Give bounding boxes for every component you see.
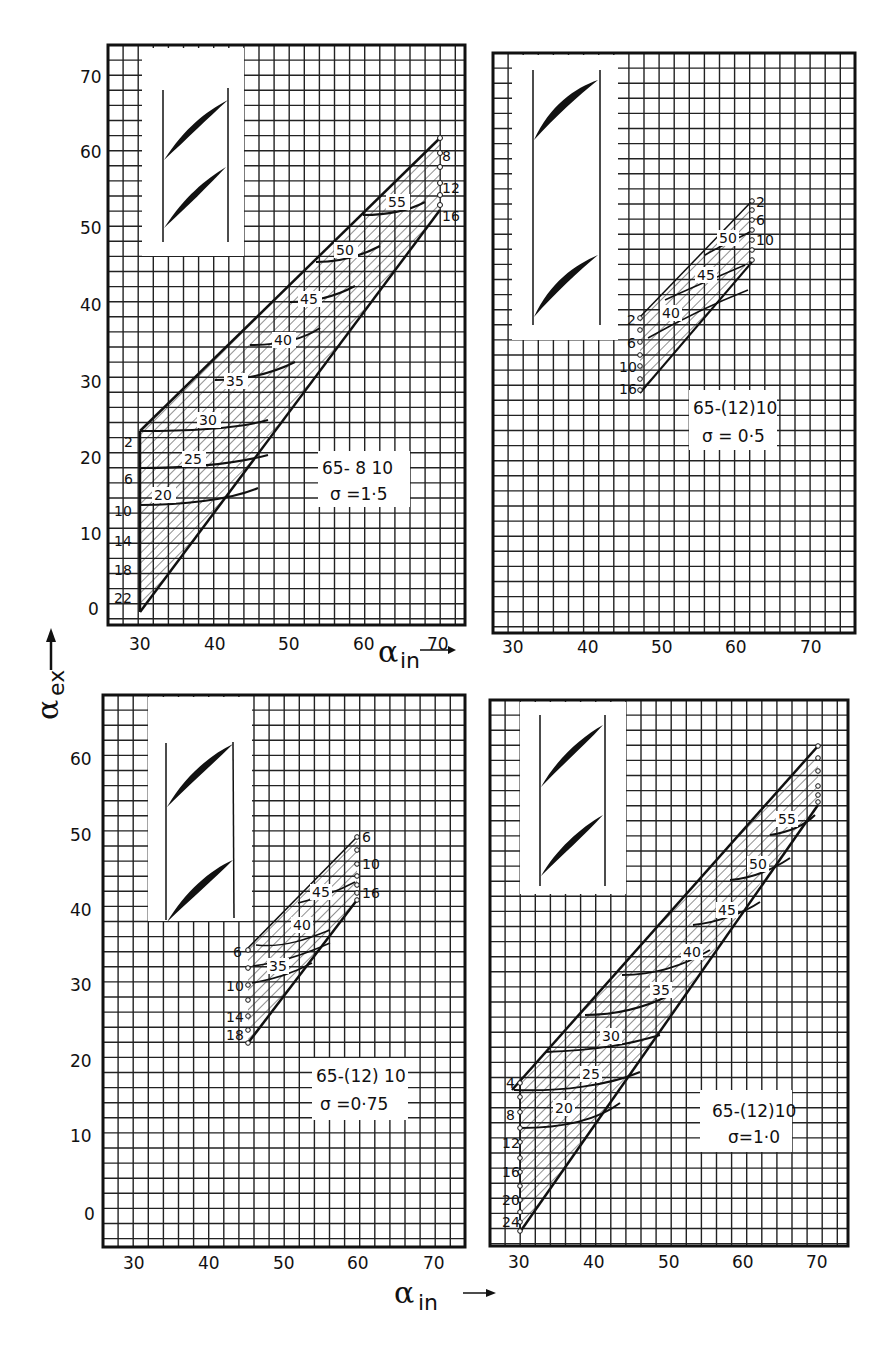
incidence-label: 6 [627, 335, 636, 351]
annotation-box: 65- 8 10 σ =1·5 [318, 451, 410, 507]
svg-text:σ=1·0: σ=1·0 [728, 1127, 780, 1147]
incidence-label: 24 [502, 1214, 520, 1230]
svg-text:ex: ex [44, 670, 69, 696]
svg-text:45: 45 [300, 291, 318, 307]
x-ticks: 3040 5060 70 [502, 637, 822, 657]
incidence-label: 16 [619, 381, 637, 397]
incidence-label: 6 [362, 829, 371, 845]
incidence-label: 20 [502, 1192, 520, 1208]
svg-text:50: 50 [336, 242, 354, 258]
svg-text:25: 25 [184, 451, 202, 467]
svg-text:40: 40 [204, 634, 226, 654]
x-ticks: 3040 5060 70 [508, 1252, 828, 1272]
svg-text:30: 30 [80, 372, 102, 392]
incidence-label: 14 [114, 533, 132, 549]
svg-text:σ =0·75: σ =0·75 [320, 1094, 388, 1114]
svg-text:45: 45 [697, 267, 715, 283]
incidence-label: 2 [756, 194, 765, 210]
incidence-label: 2 [124, 434, 133, 450]
svg-text:50: 50 [651, 637, 673, 657]
incidence-label: 22 [114, 590, 132, 606]
svg-text:10: 10 [80, 524, 102, 544]
svg-text:30: 30 [123, 1253, 145, 1273]
svg-text:0: 0 [88, 599, 99, 619]
incidence-label: 6 [233, 944, 242, 960]
incidence-label: 6 [124, 471, 133, 487]
svg-text:40: 40 [198, 1253, 220, 1273]
svg-text:60: 60 [353, 634, 375, 654]
y-axis-label: α ex [30, 628, 69, 720]
incidence-label: 18 [226, 1027, 244, 1043]
svg-text:30: 30 [129, 634, 151, 654]
incidence-label: 10 [362, 856, 380, 872]
incidence-label: 12 [502, 1135, 520, 1151]
svg-text:50: 50 [278, 634, 300, 654]
svg-text:60: 60 [70, 749, 92, 769]
svg-text:30: 30 [502, 637, 524, 657]
svg-text:60: 60 [725, 637, 747, 657]
panel-sigma-1-0: 4 8 12 16 20 24 20 25 30 35 40 45 50 55 … [490, 700, 848, 1272]
annotation-box: 65-(12)10 σ=1·0 [700, 1090, 796, 1152]
svg-text:70: 70 [800, 637, 822, 657]
svg-text:70: 70 [423, 1253, 445, 1273]
svg-text:60: 60 [732, 1252, 754, 1272]
svg-text:65-(12) 10: 65-(12) 10 [316, 1066, 406, 1086]
svg-text:40: 40 [293, 917, 311, 933]
svg-text:30: 30 [508, 1252, 530, 1272]
svg-text:α: α [394, 1275, 414, 1310]
incidence-label: 2 [627, 312, 636, 328]
svg-text:50: 50 [70, 825, 92, 845]
svg-text:60: 60 [80, 142, 102, 162]
svg-text:0: 0 [84, 1204, 95, 1224]
incidence-label: 10 [619, 359, 637, 375]
svg-text:20: 20 [80, 448, 102, 468]
svg-text:30: 30 [199, 412, 217, 428]
svg-text:20: 20 [154, 487, 172, 503]
panel-sigma-0-5: 2 6 10 16 2 6 10 40 45 50 65-(12)10 σ = … [493, 53, 855, 657]
blade-cascade-inset [148, 697, 252, 922]
svg-text:65- 8 10: 65- 8 10 [322, 458, 393, 478]
incidence-label: 14 [226, 1009, 244, 1025]
svg-text:65-(12)10: 65-(12)10 [712, 1101, 796, 1121]
cascade-deflection-figure: 8 12 16 2 6 10 14 18 22 20 25 30 35 40 4… [0, 0, 895, 1351]
svg-text:65-(12)10: 65-(12)10 [693, 398, 777, 418]
svg-text:70: 70 [806, 1252, 828, 1272]
svg-text:50: 50 [658, 1252, 680, 1272]
svg-text:40: 40 [70, 900, 92, 920]
svg-text:σ = 0·5: σ = 0·5 [702, 426, 765, 446]
svg-text:α: α [30, 700, 65, 720]
blade-cascade-inset [512, 55, 618, 340]
svg-text:40: 40 [662, 305, 680, 321]
svg-text:σ =1·5: σ =1·5 [330, 484, 387, 504]
blade-cascade-inset [142, 48, 244, 256]
svg-text:60: 60 [347, 1253, 369, 1273]
y-ticks: 6050 4030 2010 0 [70, 749, 95, 1224]
svg-text:70: 70 [427, 634, 449, 654]
annotation-box: 65-(12)10 σ = 0·5 [689, 390, 777, 450]
x-axis-label-bottom: α in [394, 1275, 496, 1315]
svg-text:in: in [418, 1290, 438, 1315]
incidence-label: 8 [442, 148, 451, 164]
svg-text:30: 30 [70, 975, 92, 995]
panel-sigma-1-5: 8 12 16 2 6 10 14 18 22 20 25 30 35 40 4… [80, 45, 465, 654]
svg-text:40: 40 [583, 1252, 605, 1272]
incidence-label: 16 [442, 208, 460, 224]
incidence-label: 12 [442, 180, 460, 196]
svg-text:30: 30 [602, 1028, 620, 1044]
svg-text:50: 50 [273, 1253, 295, 1273]
y-ticks: 7060 5040 3020 100 [80, 67, 102, 619]
svg-text:45: 45 [312, 884, 330, 900]
incidence-label: 16 [502, 1164, 520, 1180]
svg-text:in: in [400, 648, 420, 673]
svg-text:45: 45 [718, 902, 736, 918]
svg-text:50: 50 [80, 218, 102, 238]
incidence-label: 10 [114, 503, 132, 519]
incidence-label: 6 [756, 212, 765, 228]
incidence-label: 8 [506, 1107, 515, 1123]
svg-text:40: 40 [577, 637, 599, 657]
svg-text:40: 40 [274, 332, 292, 348]
svg-text:35: 35 [652, 982, 670, 998]
incidence-label: 10 [226, 978, 244, 994]
blade-cascade-inset [520, 702, 626, 894]
svg-text:35: 35 [269, 958, 287, 974]
